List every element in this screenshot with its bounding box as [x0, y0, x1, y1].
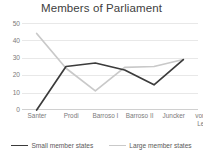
y-tick-30: 30	[2, 54, 20, 61]
y-tick-20: 20	[2, 71, 20, 78]
y-tick-40: 40	[2, 37, 20, 44]
chart-legend: Small member states Large member states	[0, 139, 203, 151]
x-tick-santer: Santer	[20, 112, 54, 120]
chart-container: Members of Parliament 50 40 30 20 10 0 S…	[0, 0, 203, 155]
x-tick-juncker: Juncker	[157, 112, 191, 120]
legend-swatch-large-icon	[109, 145, 126, 146]
line-small-member-states	[37, 60, 184, 110]
x-axis: Santer Prodi Barroso I Barroso II Juncke…	[22, 112, 198, 138]
plot-area	[22, 23, 198, 110]
y-tick-50: 50	[2, 20, 20, 27]
x-tick-barroso-ii: Barroso II	[123, 112, 157, 120]
legend-label-small: Small member states	[31, 142, 93, 149]
series-lines	[22, 23, 198, 110]
legend-item-large-member-states: Large member states	[109, 142, 191, 149]
legend-label-large: Large member states	[129, 142, 191, 149]
x-tick-prodi: Prodi	[54, 112, 88, 120]
x-tick-barroso-i: Barroso I	[88, 112, 122, 120]
legend-item-small-member-states: Small member states	[11, 142, 93, 149]
y-tick-10: 10	[2, 89, 20, 96]
chart-title: Members of Parliament	[0, 2, 203, 14]
x-tick-von-der-leyen: von der Leyen	[189, 112, 203, 129]
y-tick-0: 0	[2, 106, 20, 113]
legend-swatch-small-icon	[11, 145, 28, 146]
line-large-member-states	[37, 33, 184, 90]
y-axis: 50 40 30 20 10 0	[0, 0, 20, 155]
